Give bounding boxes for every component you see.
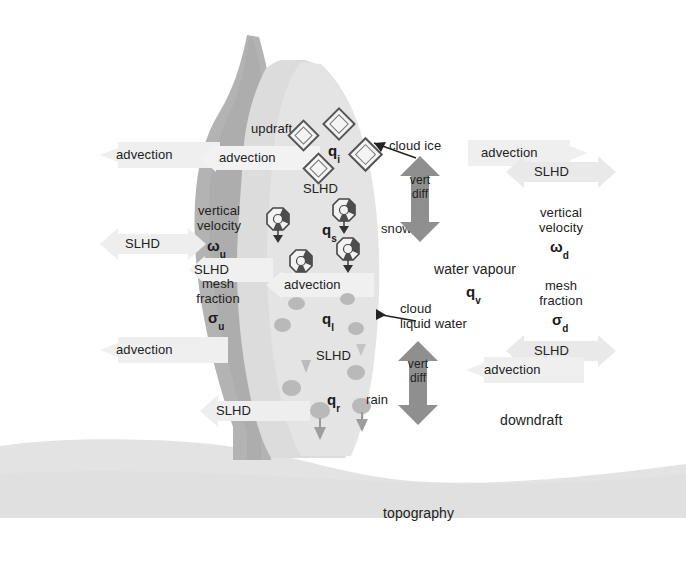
omega-d-symbol: ωd	[550, 238, 569, 258]
q-s-symbol: qs	[322, 221, 337, 241]
snow-particle	[334, 235, 362, 273]
q-v-base: q	[466, 283, 475, 300]
cloud-droplet	[347, 365, 365, 380]
omega-d-base: ω	[550, 238, 563, 255]
sigma-u-symbol: σu	[208, 309, 224, 329]
slhd-inner-mid-label: SLHD	[194, 262, 229, 277]
q-s-base: q	[322, 221, 331, 238]
sigma-d-symbol: σd	[552, 311, 568, 331]
mesh-word-d: mesh	[545, 278, 577, 293]
vertical-word-u: vertical	[198, 203, 240, 218]
advection-snow-label: advection	[284, 277, 341, 292]
q-r-sub: r	[336, 403, 340, 414]
vert-word-upper: vert	[410, 173, 430, 187]
cloud-liquid-line2: liquid water	[400, 316, 467, 331]
sigma-u-sub: u	[218, 321, 224, 332]
cloud-droplet	[274, 318, 291, 332]
fraction-word-d: fraction	[539, 293, 582, 308]
velocity-word-d: velocity	[539, 220, 583, 235]
slhd-ice-label: SLHD	[303, 181, 338, 196]
q-l-sub: l	[331, 322, 334, 333]
rain-fall-arrow	[300, 355, 312, 373]
vertical-velocity-d-label: vertical velocity	[524, 205, 598, 235]
slhd-liquid-label: SLHD	[316, 348, 351, 363]
omega-u-base: ω	[207, 237, 220, 254]
vertical-velocity-u-label: vertical velocity	[183, 203, 255, 233]
rain-fall-arrow	[312, 418, 328, 440]
water-vapour-label: water vapour	[434, 262, 516, 277]
diff-word-lower: diff	[410, 371, 426, 385]
vert-diff-upper-label: vert diff	[398, 173, 442, 201]
vert-word-lower: vert	[408, 357, 428, 371]
q-i-symbol: qi	[328, 142, 340, 162]
sigma-d-base: σ	[552, 311, 562, 328]
q-i-sub: i	[337, 154, 340, 165]
sigma-u-base: σ	[208, 309, 218, 326]
vertical-word-d: vertical	[540, 205, 582, 220]
sigma-d-sub: d	[562, 323, 568, 334]
omega-d-sub: d	[563, 250, 569, 261]
omega-u-symbol: ωu	[207, 237, 226, 257]
slhd-right-top-label: SLHD	[534, 164, 569, 179]
vert-diff-lower-label: vert diff	[396, 357, 440, 385]
updraft-label: updraft	[251, 121, 292, 136]
mesh-word-u: mesh	[202, 276, 234, 291]
rain-label: rain	[366, 392, 388, 407]
snow-particle	[264, 205, 292, 243]
q-s-sub: s	[331, 233, 337, 244]
convection-scheme-diagram: topography advection SLHD advection SLHD…	[0, 0, 686, 564]
cloud-droplet	[340, 293, 355, 305]
mesh-fraction-d-label: mesh fraction	[524, 278, 598, 308]
cloud-liquid-line1: cloud	[400, 301, 432, 316]
q-i-base: q	[328, 142, 337, 159]
slhd-outer-low-label: SLHD	[216, 403, 251, 418]
diff-word-upper: diff	[412, 187, 428, 201]
topography-label: topography	[383, 506, 454, 521]
q-l-symbol: ql	[322, 310, 334, 330]
advection-outer-low-label: advection	[116, 342, 173, 357]
mesh-fraction-u-label: mesh fraction	[183, 276, 253, 306]
slhd-outer-mid-label: SLHD	[125, 236, 160, 251]
q-l-base: q	[322, 310, 331, 327]
cloud-ice-label: cloud ice	[389, 138, 441, 153]
advection-inner-top-label: advection	[219, 150, 276, 165]
q-v-sub: v	[475, 295, 481, 306]
fraction-word-u: fraction	[196, 291, 239, 306]
q-r-base: q	[327, 391, 336, 408]
advection-right-low-label: advection	[484, 362, 541, 377]
advection-outer-top-label: advection	[116, 147, 173, 162]
downdraft-label: downdraft	[500, 413, 562, 428]
cloud-droplet	[288, 297, 305, 310]
q-r-symbol: qr	[327, 391, 340, 411]
velocity-word-u: velocity	[197, 218, 241, 233]
cloud-droplet	[282, 380, 301, 396]
rain-fall-arrow	[355, 340, 367, 356]
rain-fall-arrow	[354, 412, 370, 432]
q-v-symbol: qv	[466, 283, 481, 303]
